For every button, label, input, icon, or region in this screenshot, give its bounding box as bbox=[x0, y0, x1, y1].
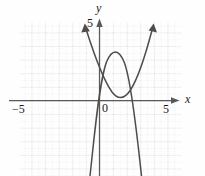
x-tick-label-5: 5 bbox=[163, 103, 169, 115]
graph-figure: y x 5 5 −5 0 bbox=[0, 0, 205, 176]
origin-label: 0 bbox=[102, 102, 108, 114]
grid-lines bbox=[20, 22, 181, 176]
x-tick-label-minus-5: −5 bbox=[12, 103, 25, 115]
x-axis-label: x bbox=[185, 93, 190, 105]
coordinate-plane-svg bbox=[0, 0, 205, 176]
y-tick-label-5: 5 bbox=[87, 17, 93, 29]
y-axis-label: y bbox=[96, 2, 101, 14]
